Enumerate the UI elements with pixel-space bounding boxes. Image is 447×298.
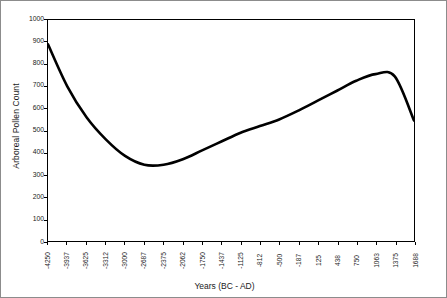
x-axis-tick-mark: [376, 242, 377, 245]
x-axis-tick-mark: [241, 242, 242, 245]
x-axis-tick-mark: [318, 242, 319, 245]
x-axis-tick-label: 1063: [370, 244, 382, 282]
x-axis-tick-label: -3312: [99, 244, 111, 282]
y-axis-tick-label: 1000: [4, 16, 44, 23]
y-axis-tick-label: 300: [4, 172, 44, 179]
x-axis-tick-label: -4250: [41, 244, 53, 282]
x-axis-title: Years (BC - AD): [1, 281, 447, 291]
x-axis-tick-label: -2062: [177, 244, 189, 282]
x-axis-tick-label: 1375: [390, 244, 402, 282]
x-axis-title-label: Years (BC - AD): [194, 281, 254, 291]
y-axis-tick-label: 800: [4, 60, 44, 67]
x-axis-tick-label: -3937: [60, 244, 72, 282]
y-axis-tick-label: 700: [4, 82, 44, 89]
x-axis-tick-mark: [183, 242, 184, 245]
x-axis-tick-label: -2687: [138, 244, 150, 282]
x-axis-tick-label: 438: [332, 244, 344, 282]
x-axis-tick-mark: [47, 242, 48, 245]
y-axis-tick-label: 900: [4, 38, 44, 45]
x-axis-tick-mark: [86, 242, 87, 245]
x-axis-tick-mark: [144, 242, 145, 245]
x-axis-tick-labels: -4250-3937-3625-3312-3000-2687-2375-2062…: [1, 242, 447, 284]
y-axis-tick-label: 500: [4, 127, 44, 134]
x-axis-tick-label: 750: [351, 244, 363, 282]
y-axis-tick-label: 200: [4, 194, 44, 201]
x-axis-tick-label: 1688: [409, 244, 421, 282]
x-axis-tick-label: -1125: [235, 244, 247, 282]
x-axis-tick-label: -2375: [157, 244, 169, 282]
y-axis-tick-label: 100: [4, 216, 44, 223]
x-axis-tick-label: -812: [254, 244, 266, 282]
x-axis-tick-mark: [415, 242, 416, 245]
x-axis-tick-label: -500: [273, 244, 285, 282]
x-axis-tick-mark: [279, 242, 280, 245]
x-axis-tick-mark: [66, 242, 67, 245]
x-axis-tick-mark: [105, 242, 106, 245]
x-axis-tick-mark: [299, 242, 300, 245]
x-axis-tick-label: 125: [312, 244, 324, 282]
x-axis-tick-label: -1750: [196, 244, 208, 282]
x-axis-tick-label: -1437: [215, 244, 227, 282]
x-axis-tick-mark: [396, 242, 397, 245]
plot-area: [47, 19, 415, 242]
x-axis-tick-label: -3625: [80, 244, 92, 282]
x-axis-tick-mark: [124, 242, 125, 245]
pollen-count-chart: Arboreal Pollen Count 100090080070060050…: [0, 0, 447, 298]
x-axis-tick-mark: [260, 242, 261, 245]
x-axis-tick-mark: [338, 242, 339, 245]
x-axis-tick-mark: [202, 242, 203, 245]
x-axis-tick-mark: [221, 242, 222, 245]
x-axis-tick-label: -187: [293, 244, 305, 282]
x-axis-tick-label: -3000: [118, 244, 130, 282]
x-axis-tick-mark: [357, 242, 358, 245]
x-axis-tick-mark: [163, 242, 164, 245]
line-chart-svg: [48, 20, 414, 241]
pollen-count-line: [48, 44, 414, 165]
y-axis-tick-label: 600: [4, 105, 44, 112]
y-axis-tick-label: 400: [4, 149, 44, 156]
